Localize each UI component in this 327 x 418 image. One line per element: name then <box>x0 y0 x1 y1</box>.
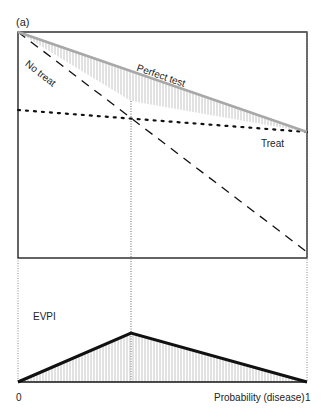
x-tick-0: 0 <box>16 392 22 403</box>
x-axis-label: Probability (disease) <box>214 392 305 403</box>
treat-label: Treat <box>261 138 284 149</box>
evpi-label: EVPI <box>33 311 56 322</box>
chart-canvas <box>0 0 327 418</box>
panel-label: (a) <box>16 16 29 28</box>
x-tick-1: 1 <box>305 392 311 403</box>
